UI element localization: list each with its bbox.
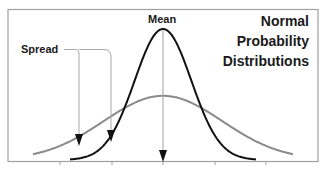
spread-label: Spread — [21, 43, 58, 55]
mean-label: Mean — [148, 13, 176, 25]
chart-title-line-2: Probability — [237, 33, 309, 50]
chart-title-line-3: Distributions — [223, 53, 309, 70]
chart-title-line-1: Normal — [261, 13, 309, 30]
